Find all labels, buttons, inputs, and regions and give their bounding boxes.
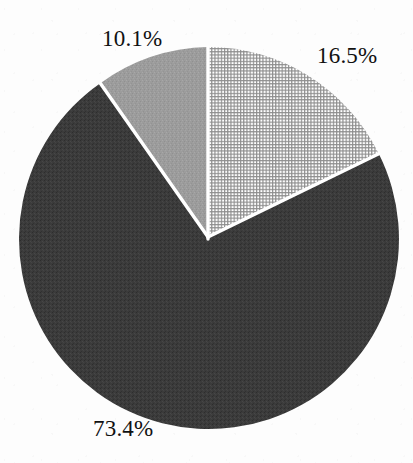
pie-slice-label-16-5: 16.5%	[317, 44, 377, 67]
pie-chart-figure: 16.5% 73.4% 10.1%	[0, 0, 413, 463]
chart-plot-area: 16.5% 73.4% 10.1%	[0, 0, 413, 463]
pie-slice-label-10-1: 10.1%	[102, 27, 162, 50]
pie-chart-svg	[0, 0, 413, 463]
pie-slice-label-73-4: 73.4%	[93, 417, 153, 440]
